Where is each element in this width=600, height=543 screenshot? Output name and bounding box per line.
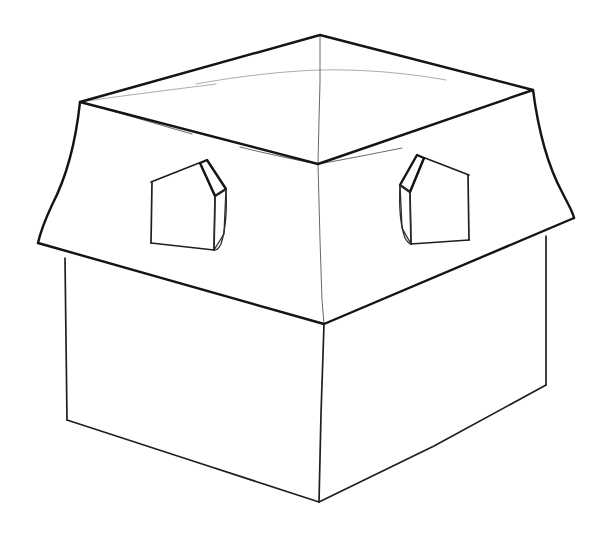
house-line-drawing <box>0 0 600 543</box>
drawing-canvas <box>0 0 600 543</box>
dormer-right-right-edge <box>468 175 469 240</box>
dormer-left-left-edge <box>151 182 152 243</box>
